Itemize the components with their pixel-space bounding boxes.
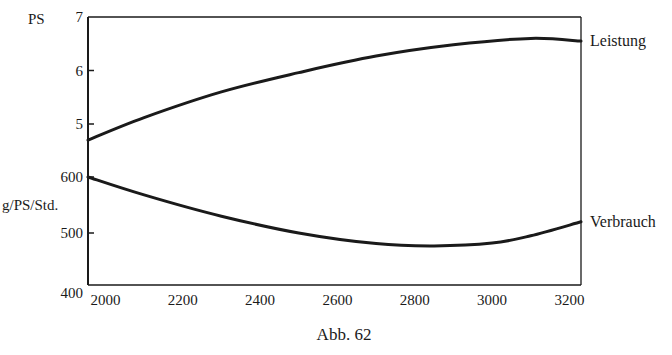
y-tick-label: 6 (76, 63, 84, 79)
upper-y-axis-title: PS (28, 11, 45, 27)
y-tick-label: 5 (76, 116, 84, 132)
chart-figure: 567400500600 200022002400260028003000320… (0, 0, 672, 355)
series-label-verbrauch: Verbrauch (590, 213, 656, 230)
x-tick-label: 2000 (90, 292, 120, 308)
figure-caption: Abb. 62 (317, 325, 372, 344)
x-tick-label: 2800 (400, 292, 430, 308)
x-tick-label: 3200 (554, 292, 584, 308)
data-curves (88, 38, 581, 246)
curve-verbrauch (88, 177, 581, 246)
y-tick-label: 500 (61, 225, 84, 241)
plot-frame (88, 17, 581, 285)
y-tick-label: 7 (76, 9, 84, 25)
x-tick-label: 2400 (245, 292, 275, 308)
curve-leistung (88, 38, 581, 140)
x-tick-label: 3000 (477, 292, 507, 308)
x-tick-label: 2600 (322, 292, 352, 308)
x-tick-label: 2200 (168, 292, 198, 308)
y-tick-label: 400 (61, 285, 84, 301)
series-labels: LeistungVerbrauch (590, 32, 656, 230)
x-axis-ticks: 2000220024002600280030003200 (90, 292, 584, 308)
y-tick-label: 600 (61, 169, 84, 185)
series-label-leistung: Leistung (590, 32, 646, 50)
lower-y-axis-title: g/PS/Std. (2, 197, 58, 213)
